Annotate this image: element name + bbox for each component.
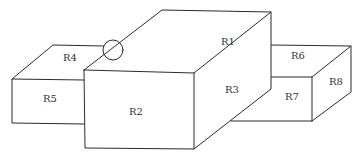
label-r5: R5 <box>43 93 57 104</box>
label-r7: R7 <box>285 91 299 102</box>
label-r1: R1 <box>221 36 235 47</box>
diagram-canvas: R1 R2 R3 R4 R5 R6 R7 R8 <box>0 0 362 161</box>
label-r3: R3 <box>225 84 239 95</box>
label-r6: R6 <box>291 50 305 61</box>
label-r8: R8 <box>329 76 343 87</box>
label-r4: R4 <box>63 52 77 63</box>
label-r2: R2 <box>129 106 143 117</box>
block-diagram: R1 R2 R3 R4 R5 R6 R7 R8 <box>0 0 362 161</box>
central-block <box>84 10 271 149</box>
